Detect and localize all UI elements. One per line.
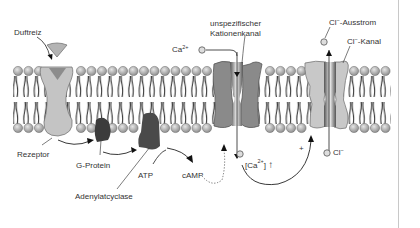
label-camp: cAMP bbox=[182, 172, 203, 180]
label-cl-inside: Cl− bbox=[333, 149, 344, 157]
label-cl-kanal: Cl−-Kanal bbox=[347, 38, 381, 46]
page-edge-divider bbox=[398, 0, 399, 228]
label-cl-ausstrom: Cl−-Ausstrom bbox=[329, 19, 376, 27]
label-adenylatcyclase: Adenylatcyclase bbox=[75, 193, 133, 201]
cl-ion-inside bbox=[324, 150, 330, 156]
chloride-channel bbox=[305, 50, 348, 151]
receptor-protein bbox=[40, 67, 73, 136]
label-atp: ATP bbox=[138, 172, 153, 180]
diagram-canvas: Duftreiz Rezeptor G-Protein ATP cAMP Ade… bbox=[0, 0, 420, 228]
duftreiz-arrow bbox=[37, 37, 50, 57]
label-g-protein: G-Protein bbox=[76, 162, 110, 170]
label-duftreiz: Duftreiz bbox=[14, 29, 42, 37]
label-ca-concentration: [Ca2+] ↑ bbox=[245, 160, 273, 170]
ca-ion-outside bbox=[199, 47, 205, 53]
label-ca-outside: Ca2+ bbox=[172, 46, 189, 54]
label-plus: + bbox=[299, 145, 304, 153]
ca-ion-inside bbox=[237, 151, 243, 157]
cl-ion-outside bbox=[321, 39, 327, 45]
label-cation-channel: unspezifischerKationenkanal bbox=[210, 19, 261, 39]
cation-channel bbox=[213, 52, 262, 159]
label-rezeptor: Rezeptor bbox=[17, 151, 49, 159]
